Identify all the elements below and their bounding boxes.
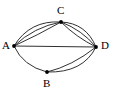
- edge-a-b: [14, 46, 47, 72]
- edge-group: [14, 22, 96, 72]
- node-label-d: D: [101, 40, 109, 51]
- edge-c-d-1: [61, 22, 96, 47]
- node-dot-c: [59, 20, 63, 24]
- edge-c-d-3: [61, 22, 96, 47]
- edge-b-d-2: [47, 47, 96, 72]
- edge-c-d-2: [61, 22, 96, 47]
- node-dot-d: [94, 45, 98, 49]
- node-label-a: A: [2, 40, 10, 51]
- node-dot-b: [45, 70, 49, 74]
- node-label-b: B: [43, 78, 50, 89]
- edge-a-d: [14, 46, 96, 47]
- node-label-c: C: [57, 5, 64, 16]
- graph-figure: A B C D: [0, 0, 114, 102]
- node-dot-a: [12, 44, 16, 48]
